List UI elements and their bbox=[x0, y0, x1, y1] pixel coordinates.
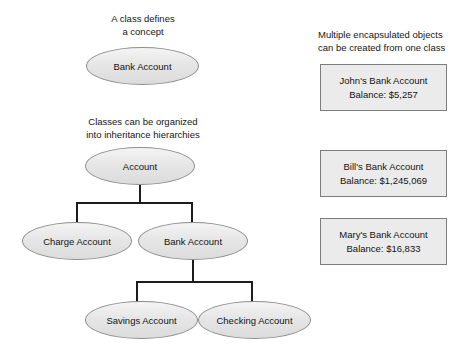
connector-account-crossbar bbox=[76, 202, 193, 204]
object-box-name: John's Bank Account bbox=[340, 74, 428, 88]
object-box-balance: Balance: $5,257 bbox=[349, 88, 418, 102]
object-box-bills-bank-account[interactable]: Bill's Bank Account Balance: $1,245,069 bbox=[320, 150, 447, 197]
object-box-name: Mary's Bank Account bbox=[339, 228, 427, 242]
class-node-bank-account-sub[interactable]: Bank Account bbox=[138, 222, 248, 260]
class-node-bank-account-top[interactable]: Bank Account bbox=[86, 47, 199, 85]
connector-bank-account-sub-stem bbox=[192, 260, 194, 282]
object-box-balance: Balance: $16,833 bbox=[347, 242, 421, 256]
class-node-charge-account[interactable]: Charge Account bbox=[22, 222, 132, 260]
caption-multiple-encapsulated-objects: Multiple encapsulated objects can be cre… bbox=[318, 28, 458, 54]
class-node-account[interactable]: Account bbox=[85, 147, 195, 185]
object-box-balance: Balance: $1,245,069 bbox=[340, 174, 427, 188]
connector-account-stem bbox=[139, 185, 141, 203]
class-node-savings-account[interactable]: Savings Account bbox=[85, 301, 198, 339]
object-box-johns-bank-account[interactable]: John's Bank Account Balance: $5,257 bbox=[320, 64, 447, 111]
caption-inheritance-hierarchies: Classes can be organized into inheritanc… bbox=[56, 115, 230, 141]
connector-bank-account-sub-crossbar bbox=[136, 281, 253, 283]
uml-class-object-diagram: A class defines a concept Bank Account C… bbox=[0, 0, 462, 363]
object-box-name: Bill's Bank Account bbox=[344, 160, 424, 174]
class-node-checking-account[interactable]: Checking Account bbox=[198, 301, 311, 339]
caption-class-defines-a-concept: A class defines a concept bbox=[72, 12, 214, 38]
object-box-marys-bank-account[interactable]: Mary's Bank Account Balance: $16,833 bbox=[320, 218, 447, 265]
